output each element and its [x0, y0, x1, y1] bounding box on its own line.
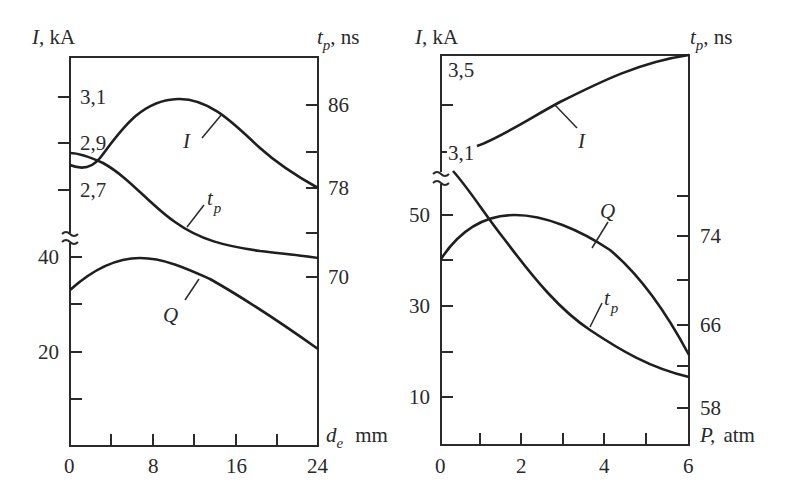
right-label-Q: Q: [600, 199, 615, 223]
right-label-I: I: [577, 129, 586, 153]
left-xtick: 24: [307, 454, 329, 478]
right-ylabel-left: I, kA: [414, 25, 459, 49]
right-curve-Q: [441, 215, 689, 355]
left-ytick: 40: [38, 245, 59, 269]
left-ytick: 3,1: [80, 85, 106, 109]
right-xlabel: P,atm: [699, 423, 755, 447]
left-ytick-right: 78: [328, 176, 349, 200]
right-label-tp: tp: [604, 286, 619, 316]
left-frame: [70, 57, 318, 446]
left-ylabel-left: I, kA: [31, 25, 76, 49]
left-xlabel: demm: [326, 423, 388, 451]
right-ytick: 30: [409, 294, 430, 318]
right-ytick: 10: [409, 385, 430, 409]
right-xtick: 6: [683, 454, 694, 478]
right-ytick-right: 66: [700, 313, 721, 337]
left-panel: I tp Q I, kA tp, ns demm 3,1 2,9 2,7 40 …: [31, 25, 388, 478]
left-label-tp: tp: [207, 186, 222, 216]
left-ytick: 2,9: [80, 131, 106, 155]
left-label-Q: Q: [163, 303, 178, 327]
right-xtick: 0: [435, 454, 446, 478]
left-xtick: 8: [148, 454, 159, 478]
right-ytick: 50: [409, 203, 430, 227]
right-ytick: 3,1: [448, 141, 474, 165]
right-xtick: 4: [599, 454, 610, 478]
left-ytick-right: 70: [328, 265, 349, 289]
left-xtick: 0: [64, 454, 75, 478]
right-ylabel-right: tp, ns: [690, 25, 733, 53]
right-xtick: 2: [516, 454, 527, 478]
left-ytick: 2,7: [80, 178, 106, 202]
right-ytick: 3,5: [448, 58, 474, 82]
left-label-I: I: [182, 129, 191, 153]
left-curve-I: [70, 99, 318, 188]
left-curve-tp: [70, 153, 318, 258]
left-ylabel-right: tp, ns: [317, 25, 360, 53]
right-ytick-right: 74: [700, 224, 722, 248]
left-ytick-right: 86: [328, 93, 349, 117]
right-ytick-right: 58: [700, 396, 721, 420]
left-ytick: 20: [38, 340, 59, 364]
chart-canvas: I tp Q I, kA tp, ns demm 3,1 2,9 2,7 40 …: [0, 0, 797, 497]
right-panel: I Q tp I, kA tp, ns P,atm 3,5 3,1 50 30 …: [409, 25, 755, 478]
right-frame: [441, 55, 689, 445]
right-curve-tp: [453, 171, 689, 377]
left-xtick: 16: [226, 454, 247, 478]
left-curve-Q: [70, 258, 318, 349]
